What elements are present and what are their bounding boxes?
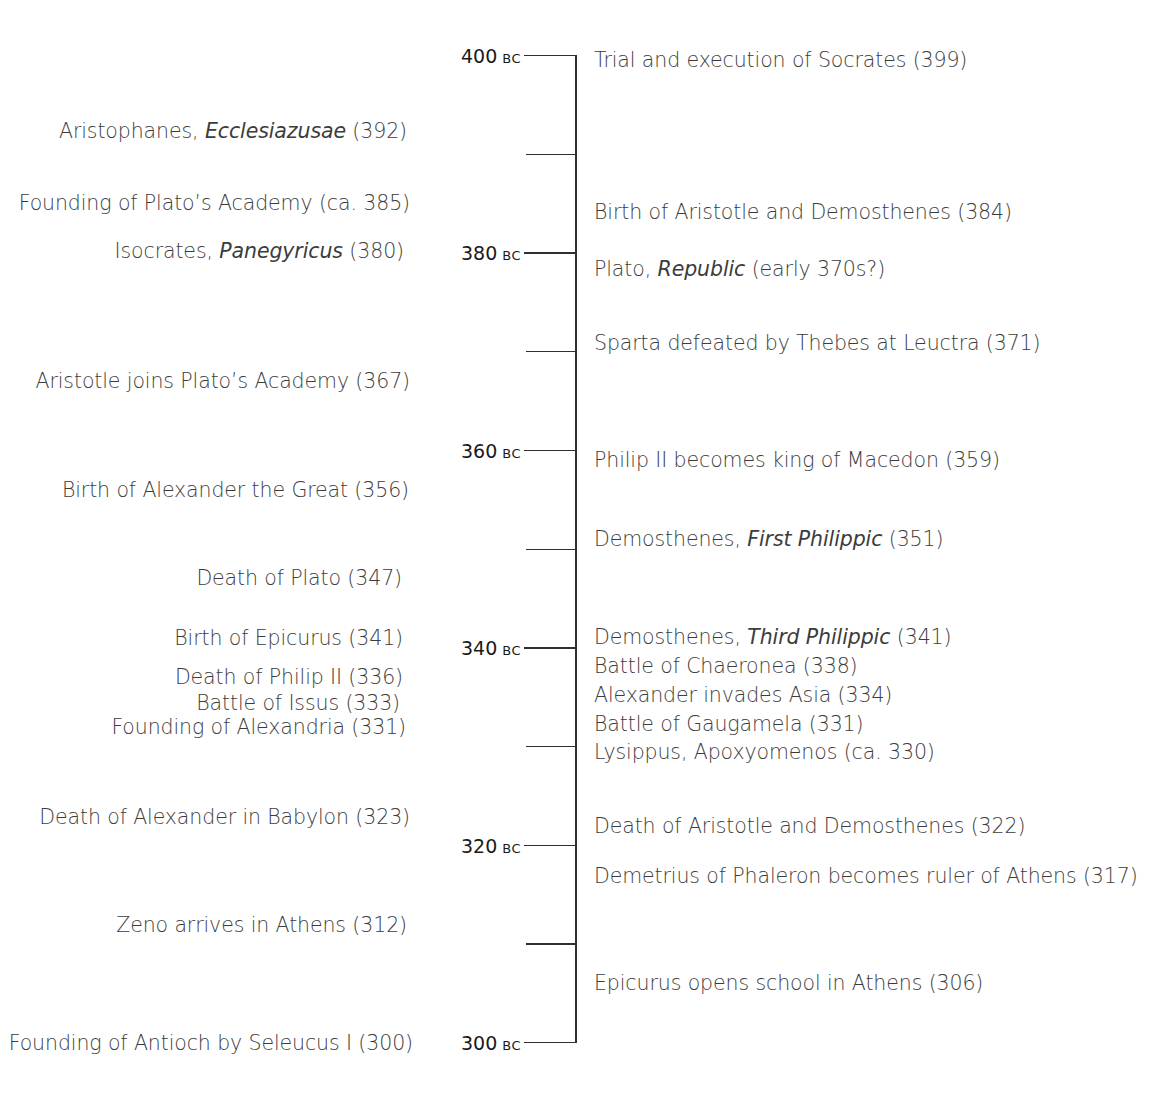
left-event: Founding of Plato’s Academy (ca. 385) (19, 193, 410, 214)
event-text: Death of Alexander in Babylon (323) (39, 805, 410, 829)
right-event: Philip II becomes king of Macedon (359) (594, 450, 1000, 471)
tick-era: BC (502, 840, 521, 855)
event-text: Death of Philip II (336) (175, 665, 403, 689)
event-work-title: Panegyricus (219, 239, 343, 263)
left-event: Founding of Antioch by Seleucus I (300) (9, 1033, 413, 1054)
left-event: Death of Plato (347) (196, 568, 402, 589)
timeline-diagram: 400BC380BC360BC340BC320BC300BC Aristopha… (0, 0, 1155, 1093)
left-event: Founding of Alexandria (331) (111, 717, 406, 738)
event-date: (392) (346, 119, 407, 143)
tick-year: 380 (461, 242, 497, 264)
right-event: Trial and execution of Socrates (399) (594, 50, 967, 71)
event-text: Birth of Epicurus (341) (174, 626, 403, 650)
left-event: Death of Alexander in Babylon (323) (39, 807, 410, 828)
right-event: Alexander invades Asia (334) (594, 685, 892, 706)
right-event: Demetrius of Phaleron becomes ruler of A… (594, 866, 1138, 887)
tick-era: BC (502, 643, 521, 658)
tick-era: BC (502, 51, 521, 66)
major-tick (524, 55, 577, 56)
right-event: Demosthenes, First Philippic (351) (594, 529, 943, 550)
event-text: Founding of Plato’s Academy (ca. 385) (19, 191, 410, 215)
event-text: Birth of Alexander the Great (356) (62, 478, 409, 502)
event-work-title: Republic (658, 257, 746, 281)
left-event: Zeno arrives in Athens (312) (116, 915, 407, 936)
right-event: Demosthenes, Third Philippic (341) (594, 627, 951, 648)
tick-year: 340 (461, 637, 497, 659)
event-work-title: Third Philippic (747, 625, 890, 649)
major-tick (524, 1042, 577, 1043)
right-event: Plato, Republic (early 370s?) (594, 259, 885, 280)
left-event: Birth of Epicurus (341) (174, 628, 403, 649)
event-text: Zeno arrives in Athens (312) (116, 913, 407, 937)
event-text: Plato, (594, 257, 658, 281)
event-text: Founding of Antioch by Seleucus I (300) (9, 1031, 413, 1055)
major-tick (524, 450, 577, 451)
event-date: (380) (343, 239, 404, 263)
tick-era: BC (502, 445, 521, 460)
event-text: Aristophanes, (59, 119, 205, 143)
left-event: Aristotle joins Plato’s Academy (367) (36, 371, 410, 392)
left-event: Battle of Issus (333) (196, 693, 400, 714)
minor-tick (526, 351, 577, 352)
right-event: Death of Aristotle and Demosthenes (322) (594, 816, 1025, 837)
left-event: Aristophanes, Ecclesiazusae (392) (59, 121, 407, 142)
event-text: Battle of Issus (333) (196, 691, 400, 715)
major-tick (524, 845, 577, 846)
tick-year: 360 (461, 439, 497, 461)
minor-tick (526, 154, 577, 155)
tick-label: 340BC (461, 637, 521, 659)
tick-label: 300BC (461, 1032, 521, 1054)
left-event: Isocrates, Panegyricus (380) (115, 241, 405, 262)
tick-year: 300 (461, 1032, 497, 1054)
event-text: Birth of Aristotle and Demosthenes (384) (594, 200, 1012, 224)
event-text: Death of Aristotle and Demosthenes (322) (594, 814, 1025, 838)
tick-label: 320BC (461, 834, 521, 856)
event-text: Demetrius of Phaleron becomes ruler of A… (594, 864, 1138, 888)
tick-era: BC (502, 248, 521, 263)
event-text: Trial and execution of Socrates (399) (594, 48, 967, 72)
event-text: Demosthenes, (594, 527, 747, 551)
event-text: Battle of Gaugamela (331) (594, 712, 863, 736)
major-tick (524, 647, 577, 648)
right-event: Birth of Aristotle and Demosthenes (384) (594, 202, 1012, 223)
right-event: Sparta defeated by Thebes at Leuctra (37… (594, 333, 1040, 354)
tick-label: 360BC (461, 439, 521, 461)
tick-label: 400BC (461, 45, 521, 67)
event-text: Death of Plato (347) (196, 566, 402, 590)
left-event: Birth of Alexander the Great (356) (62, 480, 409, 501)
right-event: Battle of Chaeronea (338) (594, 656, 857, 677)
event-text: Alexander invades Asia (334) (594, 683, 892, 707)
tick-year: 400 (461, 45, 497, 67)
right-event: Epicurus opens school in Athens (306) (594, 973, 983, 994)
event-text: Founding of Alexandria (331) (111, 715, 406, 739)
tick-era: BC (502, 1038, 521, 1053)
tick-label: 380BC (461, 242, 521, 264)
event-date: (early 370s?) (745, 257, 885, 281)
minor-tick (526, 549, 577, 550)
event-work-title: Ecclesiazusae (205, 119, 346, 143)
event-date: (341) (890, 625, 951, 649)
event-text: Philip II becomes king of Macedon (359) (594, 448, 1000, 472)
event-text: Aristotle joins Plato’s Academy (367) (36, 369, 410, 393)
minor-tick (526, 746, 577, 747)
right-event: Lysippus, Apoxyomenos (ca. 330) (594, 742, 935, 763)
minor-tick (526, 943, 577, 944)
event-date: (351) (882, 527, 943, 551)
right-event: Battle of Gaugamela (331) (594, 714, 863, 735)
event-text: Battle of Chaeronea (338) (594, 654, 857, 678)
event-text: Epicurus opens school in Athens (306) (594, 971, 983, 995)
event-work-title: First Philippic (747, 527, 882, 551)
event-text: Lysippus, Apoxyomenos (ca. 330) (594, 740, 935, 764)
major-tick (524, 252, 577, 253)
event-text: Sparta defeated by Thebes at Leuctra (37… (594, 331, 1040, 355)
left-event: Death of Philip II (336) (175, 667, 403, 688)
event-text: Isocrates, (115, 239, 220, 263)
event-text: Demosthenes, (594, 625, 747, 649)
tick-year: 320 (461, 834, 497, 856)
